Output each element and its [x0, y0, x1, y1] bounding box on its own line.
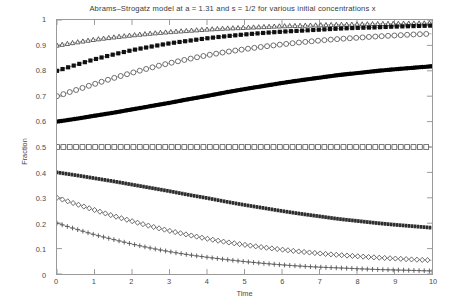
x-tick-label: 3	[167, 277, 171, 286]
x-axis-ticklabels: 012345678910	[56, 277, 433, 289]
y-tick-label: 0.8	[36, 66, 46, 75]
x-tick-label: 9	[393, 277, 397, 286]
x-tick-label: 4	[205, 277, 209, 286]
plot-area	[56, 19, 433, 275]
series-3	[57, 64, 432, 124]
series-1	[57, 24, 432, 73]
x-tick-label: 10	[429, 277, 437, 286]
x-tick-label: 0	[54, 277, 58, 286]
chart-title: Abrams–Strogatz model at a = 1.31 and s …	[0, 4, 465, 13]
y-tick-label: 0	[42, 271, 46, 280]
x-tick-label: 1	[92, 277, 96, 286]
y-axis-ticklabels: 00.10.20.30.40.50.60.70.80.91	[0, 19, 52, 275]
x-tick-label: 2	[129, 277, 133, 286]
x-tick-label: 5	[242, 277, 246, 286]
y-tick-label: 0.3	[36, 194, 46, 203]
chart-figure: Abrams–Strogatz model at a = 1.31 and s …	[0, 0, 465, 307]
y-tick-label: 0.4	[36, 168, 46, 177]
y-tick-label: 0.7	[36, 91, 46, 100]
y-tick-label: 0.2	[36, 219, 46, 228]
series-5	[57, 171, 432, 230]
y-tick-label: 1	[42, 15, 46, 24]
y-tick-label: 0.9	[36, 40, 46, 49]
x-tick-label: 6	[280, 277, 284, 286]
x-tick-label: 7	[318, 277, 322, 286]
x-tick-label: 8	[356, 277, 360, 286]
y-tick-label: 0.6	[36, 117, 46, 126]
y-tick-label: 0.5	[36, 143, 46, 152]
plot-svg	[57, 20, 432, 274]
x-axis-title: Time	[56, 289, 433, 298]
series-4	[57, 145, 432, 150]
y-tick-label: 0.1	[36, 245, 46, 254]
